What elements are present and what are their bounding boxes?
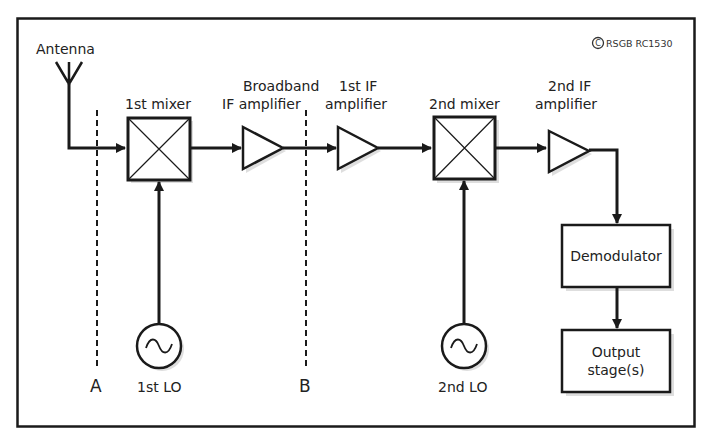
lo2-label: 2nd LO [438,379,487,395]
output-stage-block: Output stage(s) [562,330,674,396]
output-label-line1: Output [592,344,641,360]
first-if-amplifier: 1st IF amplifier [325,78,387,173]
copyright-text: RSGB RC1530 [606,38,672,49]
lo2-block: 2nd LO [438,181,489,395]
lo1-label: 1st LO [137,379,181,395]
if2-to-demod-line [589,150,617,223]
if1-label-line1: 1st IF [339,78,377,94]
bbamp-label-line1: Broadband [243,78,319,94]
plane-a-label: A [90,376,102,396]
mixer1-label: 1st mixer [125,96,191,112]
reference-plane-b: B [299,110,311,396]
plane-b-label: B [299,376,311,396]
broadband-if-amplifier: Broadband IF amplifier [222,78,319,173]
mixer2-block: 2nd mixer [429,96,500,183]
antenna-icon [56,62,82,84]
demod-label: Demodulator [570,248,662,264]
mixer1-block: 1st mixer [125,96,193,183]
output-label-line2: stage(s) [587,362,644,378]
copyright-c-glyph: C [595,39,601,48]
lo1-block: 1st LO [137,182,184,395]
bbamp-label-line2: IF amplifier [222,96,301,112]
antenna: Antenna [36,41,125,148]
if2-label-line1: 2nd IF [548,78,591,94]
reference-plane-a: A [90,110,102,396]
mixer2-label: 2nd mixer [429,96,500,112]
receiver-diagram: C RSGB RC1530 Antenna A 1st mixer Broadb… [0,0,704,433]
demodulator-block: Demodulator [562,225,674,291]
second-if-amplifier: 2nd IF amplifier [535,78,597,176]
if2-label-line2: amplifier [535,96,597,112]
antenna-label: Antenna [36,41,95,57]
if1-label-line2: amplifier [325,96,387,112]
copyright-notice: C RSGB RC1530 [593,38,673,50]
